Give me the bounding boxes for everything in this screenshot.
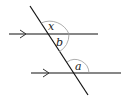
angle-x-label: x	[48, 20, 55, 33]
transversal-line	[30, 6, 88, 95]
angle-x-arc	[41, 21, 69, 34]
angle-b-label: b	[56, 36, 63, 49]
angle-a-label: a	[75, 60, 82, 73]
diagram: x b a	[0, 0, 124, 102]
